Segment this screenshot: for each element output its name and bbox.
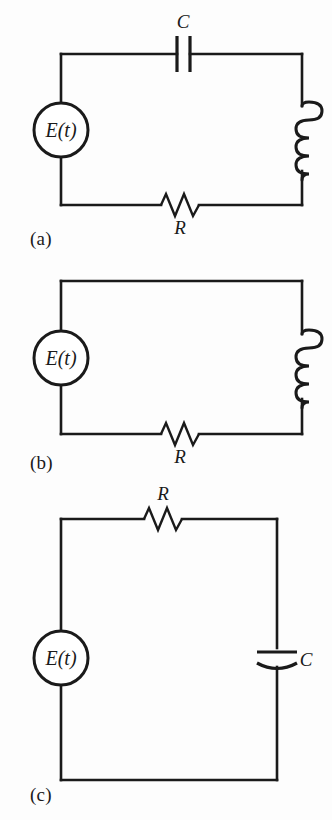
resistor-zigzag-c bbox=[144, 508, 182, 530]
voltage-source-label-c: E(t) bbox=[44, 647, 76, 670]
circuit-diagram-a: C R E(t) bbox=[0, 0, 332, 262]
circuit-b-svg: R E(t) bbox=[0, 262, 332, 480]
voltage-source-label-b: E(t) bbox=[44, 347, 76, 370]
resistor-zigzag-a bbox=[161, 194, 199, 216]
panel-label-c: (c) bbox=[30, 784, 52, 806]
capacitor-label-a: C bbox=[177, 11, 190, 32]
panel-label-b: (b) bbox=[30, 452, 53, 474]
circuit-diagram-b: R E(t) bbox=[0, 262, 332, 480]
resistor-label-c: R bbox=[156, 483, 169, 504]
circuit-diagram-c: R C E(t) bbox=[0, 480, 332, 820]
panel-label-a: (a) bbox=[30, 228, 52, 250]
capacitor-label-c: C bbox=[300, 649, 313, 670]
circuit-a-svg: C R E(t) bbox=[0, 0, 332, 262]
inductor-coil-a bbox=[296, 102, 322, 180]
circuit-c-svg: R C E(t) bbox=[0, 480, 332, 820]
voltage-source-label-a: E(t) bbox=[44, 119, 76, 142]
figure-page: C R E(t) bbox=[0, 0, 332, 820]
resistor-zigzag-b bbox=[161, 423, 199, 445]
inductor-coil-b bbox=[296, 330, 322, 408]
resistor-label-b: R bbox=[173, 446, 186, 467]
resistor-label-a: R bbox=[173, 217, 186, 238]
